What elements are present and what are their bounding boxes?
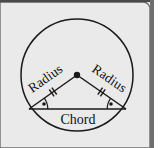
chord-label: Chord [61,112,96,127]
right-border-band [150,0,154,148]
right-outer-margin [154,0,161,148]
top-border-rule [0,0,150,2]
geometry-figure: Radius Radius Chord [0,0,161,148]
angle-dot-left [42,102,46,106]
circle-radius-chord-diagram: Radius Radius Chord [0,0,161,148]
center-point-dot [74,72,80,78]
angle-dot-right [109,102,113,106]
